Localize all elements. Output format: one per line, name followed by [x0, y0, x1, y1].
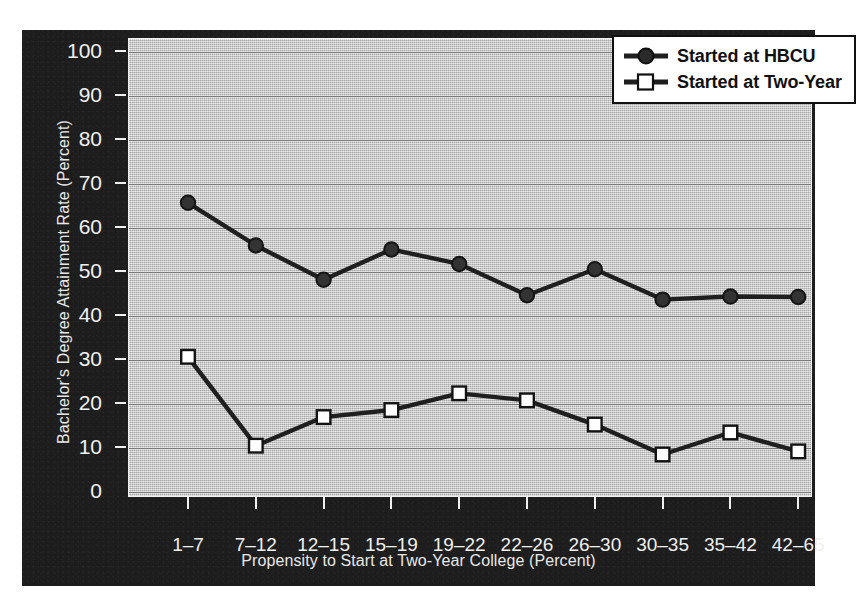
y-tick-label: 30 — [42, 348, 102, 369]
legend-label-two-year: Started at Two-Year — [677, 72, 842, 93]
x-tick-mark — [526, 496, 528, 509]
x-tick-mark — [458, 496, 460, 509]
y-tick-label: 90 — [42, 84, 102, 105]
legend-label-hbcu: Started at HBCU — [677, 46, 816, 67]
y-tick-label: 100 — [42, 40, 102, 61]
y-tick-label: 50 — [42, 260, 102, 281]
y-tick-label: 60 — [42, 216, 102, 237]
chart-panel: Bachelor's Degree Attainment Rate (Perce… — [22, 30, 815, 586]
y-tick-label: 80 — [42, 128, 102, 149]
legend-item-hbcu[interactable]: Started at HBCU — [624, 43, 842, 69]
x-tick-mark — [255, 496, 257, 509]
y-tick-label: 0 — [42, 480, 102, 501]
x-tick-mark — [729, 496, 731, 509]
x-tick-mark — [390, 496, 392, 509]
y-tick-mark — [115, 402, 126, 404]
y-tick-mark — [115, 314, 126, 316]
y-tick-mark — [115, 226, 126, 228]
y-tick-mark — [115, 50, 126, 52]
y-tick-label: 70 — [42, 172, 102, 193]
y-tick-label: 10 — [42, 436, 102, 457]
y-tick-mark — [115, 94, 126, 96]
y-tick-mark — [115, 446, 126, 448]
x-tick-mark — [323, 496, 325, 509]
x-tick-mark — [662, 496, 664, 509]
y-axis-ticks: 0102030405060708090100 — [22, 30, 128, 530]
x-tick-mark — [594, 496, 596, 509]
chart-legend: Started at HBCU Started at Two-Year — [612, 35, 856, 104]
y-tick-label: 40 — [42, 304, 102, 325]
filled-circle-icon — [624, 45, 668, 67]
y-tick-mark — [115, 270, 126, 272]
y-tick-mark — [115, 182, 126, 184]
legend-item-two-year[interactable]: Started at Two-Year — [624, 69, 842, 95]
open-square-icon — [624, 71, 668, 93]
x-axis-ticks: 1–77–1212–1515–1919–2222–2626–3030–3535–… — [128, 30, 810, 590]
y-tick-label: 20 — [42, 392, 102, 413]
y-tick-mark — [115, 138, 126, 140]
x-tick-mark — [797, 496, 799, 509]
y-tick-mark — [115, 358, 126, 360]
x-tick-label: 42–65 — [753, 535, 843, 555]
x-tick-mark — [187, 496, 189, 509]
